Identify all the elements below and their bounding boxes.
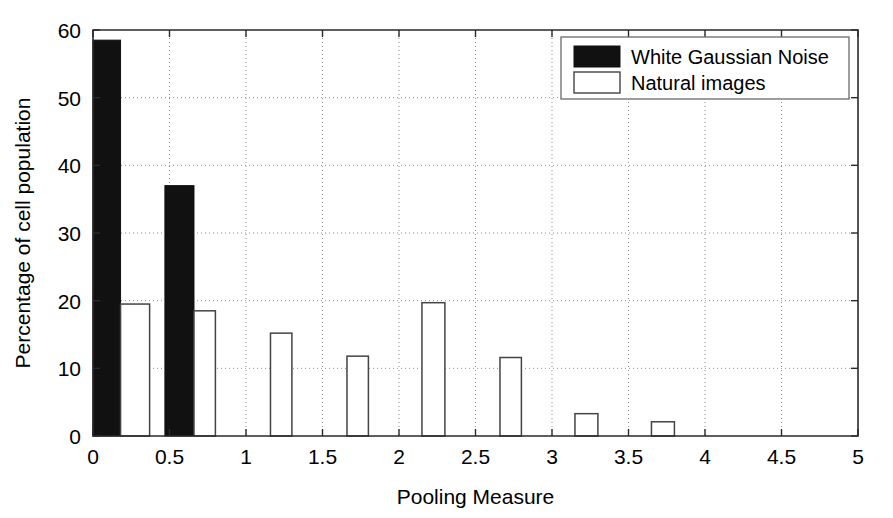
bar-open-1-5 [500, 358, 521, 436]
chart-figure: 00.511.522.533.544.550102030405060Poolin… [0, 0, 893, 518]
x-tick-label: 4 [699, 445, 711, 468]
chart-legend: White Gaussian NoiseNatural images [561, 37, 849, 99]
bar-filled-0-1 [165, 186, 194, 436]
x-tick-label: 0.5 [155, 445, 184, 468]
x-tick-label: 4.5 [767, 445, 796, 468]
bar-open-1-3 [347, 356, 368, 436]
y-tick-label: 10 [58, 357, 81, 380]
bar-open-1-7 [651, 422, 674, 436]
x-tick-label: 0 [87, 445, 99, 468]
x-tick-label: 1 [240, 445, 252, 468]
legend-swatch-filled [574, 46, 620, 67]
bar-open-1-2 [270, 333, 291, 436]
bar-open-1-0 [121, 304, 150, 436]
y-tick-label: 50 [58, 87, 81, 110]
y-axis-title: Percentage of cell population [11, 98, 34, 369]
legend-label: White Gaussian Noise [631, 46, 829, 68]
x-axis-title: Pooling Measure [397, 485, 555, 508]
bar-filled-0-0 [93, 40, 121, 436]
x-tick-label: 5 [852, 445, 864, 468]
legend-label: Natural images [631, 72, 766, 94]
x-tick-label: 2 [393, 445, 405, 468]
bar-chart-canvas: 00.511.522.533.544.550102030405060Poolin… [0, 0, 893, 518]
x-tick-label: 1.5 [308, 445, 337, 468]
x-tick-label: 2.5 [461, 445, 490, 468]
bar-open-1-4 [422, 303, 445, 436]
x-tick-label: 3 [546, 445, 558, 468]
y-tick-label: 30 [58, 222, 81, 245]
legend-swatch-open [574, 72, 620, 93]
y-tick-label: 40 [58, 154, 81, 177]
y-tick-label: 20 [58, 290, 81, 313]
bar-open-1-1 [194, 311, 215, 436]
y-tick-label: 0 [69, 425, 81, 448]
bar-open-1-6 [575, 414, 598, 436]
x-tick-label: 3.5 [614, 445, 643, 468]
y-tick-label: 60 [58, 19, 81, 42]
